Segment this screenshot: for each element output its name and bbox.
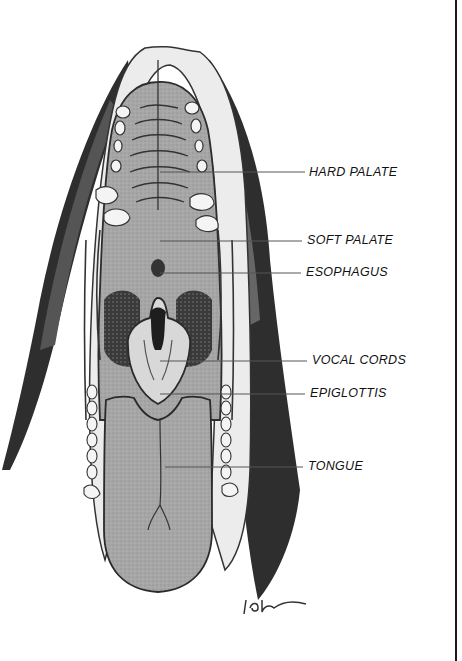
anatomy-figure: HARD PALATE SOFT PALATE ESOPHAGUS VOCAL … (0, 0, 462, 661)
label-esophagus: ESOPHAGUS (306, 265, 388, 279)
right-border-rule (455, 0, 457, 661)
artist-signature (244, 600, 306, 614)
tongue (104, 397, 212, 592)
illustration (0, 0, 462, 661)
label-tongue: TONGUE (308, 459, 363, 473)
label-soft-palate: SOFT PALATE (307, 233, 393, 247)
label-epiglottis: EPIGLOTTIS (310, 386, 387, 400)
label-hard-palate: HARD PALATE (309, 165, 397, 179)
label-vocal-cords: VOCAL CORDS (312, 353, 406, 367)
